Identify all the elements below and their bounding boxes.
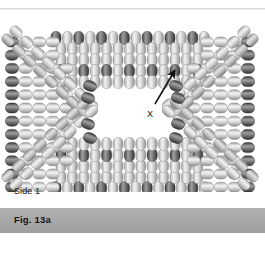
bead [33, 129, 46, 139]
bead [242, 63, 255, 73]
page-top-rule-highlight [0, 9, 265, 10]
bead [214, 90, 227, 100]
bead [242, 129, 255, 139]
bead [214, 37, 227, 47]
bead [33, 169, 46, 179]
bead [46, 182, 59, 192]
bead [33, 77, 46, 87]
bead [19, 103, 32, 113]
bead [33, 103, 46, 113]
bead [214, 116, 227, 126]
bead [242, 103, 255, 113]
bead [6, 129, 19, 139]
bead [214, 169, 227, 179]
bead [6, 103, 19, 113]
bead [102, 138, 112, 151]
bead [102, 76, 112, 89]
bead [46, 37, 59, 47]
bead [242, 90, 255, 100]
bead [124, 76, 134, 89]
bead [124, 138, 134, 151]
bead [201, 169, 214, 179]
bead [60, 156, 73, 166]
beadwork-illustration [0, 12, 265, 192]
bead [19, 129, 32, 139]
bead [214, 77, 227, 87]
bead [6, 116, 19, 126]
bead [6, 143, 19, 153]
bead [6, 90, 19, 100]
bead [113, 138, 123, 151]
bead [228, 77, 241, 87]
bead [19, 90, 32, 100]
bead [136, 138, 146, 151]
bead [147, 138, 157, 151]
bead [228, 103, 241, 113]
bead [113, 76, 123, 89]
bead [46, 103, 59, 113]
bead [201, 37, 214, 47]
bead [33, 37, 46, 47]
side-label: Side 1 [14, 186, 40, 196]
bead [228, 129, 241, 139]
bead [187, 156, 200, 166]
bead [214, 182, 227, 192]
bead [242, 116, 255, 126]
bead [46, 169, 59, 179]
bead [214, 129, 227, 139]
bead [33, 90, 46, 100]
bead [214, 103, 227, 113]
bead [201, 103, 214, 113]
bead [33, 116, 46, 126]
bead-field [0, 24, 260, 192]
bead [228, 116, 241, 126]
bead [159, 138, 169, 151]
bead [228, 90, 241, 100]
bead [6, 63, 19, 73]
bead [242, 77, 255, 87]
bead [19, 116, 32, 126]
bead [136, 76, 146, 89]
callout-label-x: X [147, 109, 153, 119]
figure-number-label: Fig. 13a [14, 214, 51, 225]
bead [201, 182, 214, 192]
bead [6, 77, 19, 87]
beadwork-diagram: X [0, 12, 265, 192]
bead [147, 76, 157, 89]
bead [19, 77, 32, 87]
bead [242, 143, 255, 153]
figure-page: X Side 1 Fig. 13a [0, 0, 265, 254]
